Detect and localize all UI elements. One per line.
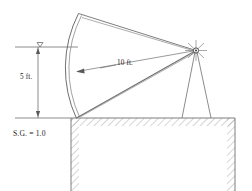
water-surface-triangle-icon <box>37 43 43 48</box>
tainter-gate-figure: 5 ft. 10 ft. S.G. = 1.0 <box>0 0 252 191</box>
left-wall-hatch-band <box>71 118 79 191</box>
specific-gravity-label: S.G. = 1.0 <box>13 130 46 138</box>
pivot-assembly <box>185 40 207 61</box>
support-frame <box>182 52 211 118</box>
lower-arm-outer <box>77 51 197 119</box>
lower-arm-inner <box>80 52 196 117</box>
gate-radial-arms <box>77 14 197 119</box>
dam-structure <box>71 118 235 191</box>
support-leg-right <box>197 52 211 118</box>
radius-label: 10 ft. <box>117 60 133 67</box>
support-leg-left <box>182 52 195 118</box>
radius-arrowhead-icon <box>76 68 84 73</box>
depth-label: 5 ft. <box>20 74 32 81</box>
diagram-canvas <box>0 0 252 191</box>
depth-dimension-group <box>36 47 40 118</box>
depth-arrow-down-icon <box>36 111 40 117</box>
upper-arm-inner <box>82 18 196 52</box>
tainter-gate <box>65 14 81 119</box>
ground-hatch-band <box>71 118 235 126</box>
pivot-center-dot <box>195 50 197 52</box>
right-wall-hatch-band <box>227 118 235 191</box>
radius-leader-line <box>100 65 116 68</box>
depth-arrow-up-icon <box>36 48 40 54</box>
upper-arm-outer <box>79 14 197 51</box>
gate-face-outer <box>65 14 78 119</box>
